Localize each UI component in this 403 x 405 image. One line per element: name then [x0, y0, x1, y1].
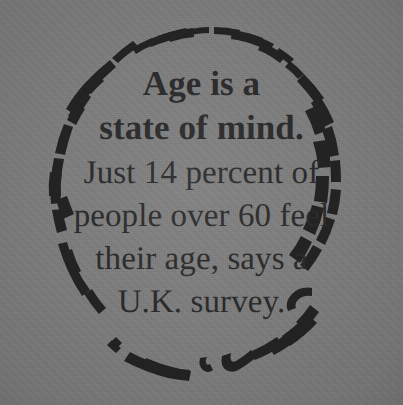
- body-line-3: their age, says a: [95, 243, 307, 276]
- body-line-2: people over 60 feel: [74, 200, 330, 233]
- quote-block: Age is a state of mind. Just 14 percent …: [0, 0, 403, 405]
- body-line-4: U.K. survey.: [118, 286, 286, 319]
- headline-line-1: Age is a: [143, 66, 260, 101]
- poster-canvas: Age is a state of mind. Just 14 percent …: [0, 0, 403, 405]
- headline-line-2: state of mind.: [99, 110, 304, 145]
- body-line-1: Just 14 percent of: [84, 157, 320, 190]
